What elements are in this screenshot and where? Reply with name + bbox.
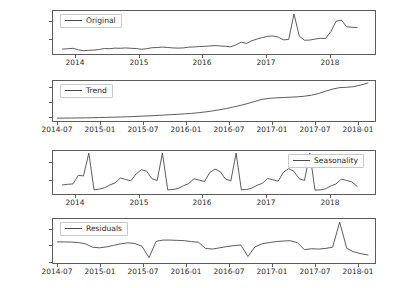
x-tick-label: 2018-01 — [343, 126, 374, 133]
x-tick-label: 2016-01 — [171, 268, 202, 275]
x-tick-label: 2015-01 — [85, 126, 116, 133]
x-tick-label: 2014-07 — [42, 268, 73, 275]
x-tick-label: 2017 — [257, 199, 276, 206]
x-tick-label: 2015-01 — [85, 268, 116, 275]
legend-seasonality: Seasonality — [288, 154, 364, 168]
x-tick-label: 2015-07 — [128, 126, 159, 133]
x-tick-label: 2015 — [130, 199, 149, 206]
x-tick-label: 2016-07 — [214, 268, 245, 275]
legend-label: Residuals — [86, 225, 122, 233]
legend-line-icon — [293, 160, 310, 161]
x-tick-label: 2017-07 — [300, 126, 331, 133]
x-tick-label: 2016-01 — [171, 126, 202, 133]
x-tick-label: 2017-07 — [300, 268, 331, 275]
x-tick-label: 2018-01 — [343, 268, 374, 275]
legend-trend: Trend — [60, 84, 113, 98]
x-tick-label: 2014 — [66, 199, 85, 206]
x-tick-label: 2017 — [257, 59, 276, 66]
x-tick-label: 2016 — [193, 199, 212, 206]
timeseries-decomposition-figure: 20000 10000 Original 2014 2015 2016 2017… — [0, 0, 393, 288]
legend-residuals: Residuals — [60, 222, 128, 236]
legend-label: Trend — [86, 87, 107, 95]
x-tick-label: 2014-07 — [42, 126, 73, 133]
x-tick-label: 2017-01 — [257, 126, 288, 133]
x-tick-label: 2015-07 — [128, 268, 159, 275]
legend-original: Original — [60, 14, 122, 28]
x-tick-label: 2016-07 — [214, 126, 245, 133]
legend-line-icon — [65, 228, 82, 229]
x-tick-label: 2016 — [193, 59, 212, 66]
x-tick-label: 2014 — [66, 59, 85, 66]
legend-line-icon — [65, 20, 82, 21]
legend-label: Seasonality — [314, 157, 358, 165]
x-tick-label: 2015 — [130, 59, 149, 66]
x-tick-label: 2017-01 — [257, 268, 288, 275]
legend-line-icon — [65, 90, 82, 91]
x-tick-label: 2018 — [321, 199, 340, 206]
x-tick-label: 2018 — [321, 59, 340, 66]
legend-label: Original — [86, 17, 116, 25]
